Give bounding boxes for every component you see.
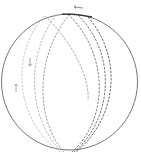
arc-3 — [43, 14, 70, 152]
arc-6 — [76, 17, 111, 152]
arrow-down-icon — [29, 58, 32, 66]
arc-7 — [45, 16, 88, 100]
arrow-up-icon — [15, 84, 18, 92]
arc-1 — [22, 16, 60, 152]
sphere-diagram — [0, 0, 141, 152]
top-highlight — [62, 14, 92, 17]
arrow-top-left-icon — [74, 6, 83, 9]
arc-2 — [35, 15, 62, 152]
